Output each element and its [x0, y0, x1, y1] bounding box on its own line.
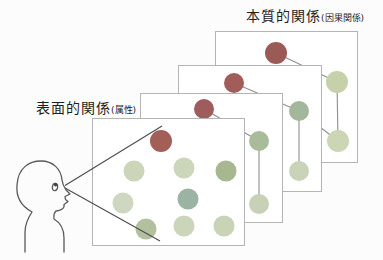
front-relations-label: 表面的関係(属性)	[36, 97, 136, 117]
relation-node	[174, 216, 195, 237]
front-relations-note: (属性)	[111, 105, 136, 115]
relation-node	[194, 99, 214, 119]
back-relations-title: 本質的関係	[246, 8, 321, 24]
relation-graph-1	[93, 119, 246, 247]
front-relations-title: 表面的関係	[36, 100, 111, 116]
relation-node	[124, 161, 145, 182]
person-outline	[17, 161, 70, 252]
relation-node	[249, 194, 269, 214]
relation-node	[216, 161, 237, 182]
relation-node	[113, 193, 134, 214]
relation-card-1	[92, 118, 245, 246]
relation-node	[326, 71, 348, 93]
relation-node	[174, 158, 195, 179]
diagram-canvas: 本質的関係(因果関係) 表面的関係(属性)	[0, 0, 383, 260]
relation-node	[224, 73, 244, 93]
back-relations-label: 本質的関係(因果関係)	[246, 5, 364, 25]
relation-node	[178, 189, 199, 210]
relation-node	[136, 219, 157, 240]
relation-node	[327, 130, 349, 152]
back-relations-note: (因果関係)	[321, 13, 364, 23]
relation-node	[289, 101, 309, 121]
person-figure	[8, 156, 78, 254]
relation-node	[249, 131, 269, 151]
relation-node	[289, 161, 309, 181]
relation-node	[214, 216, 235, 237]
relation-node	[150, 130, 172, 152]
eye-pupil	[54, 183, 57, 186]
relation-node	[265, 42, 287, 64]
